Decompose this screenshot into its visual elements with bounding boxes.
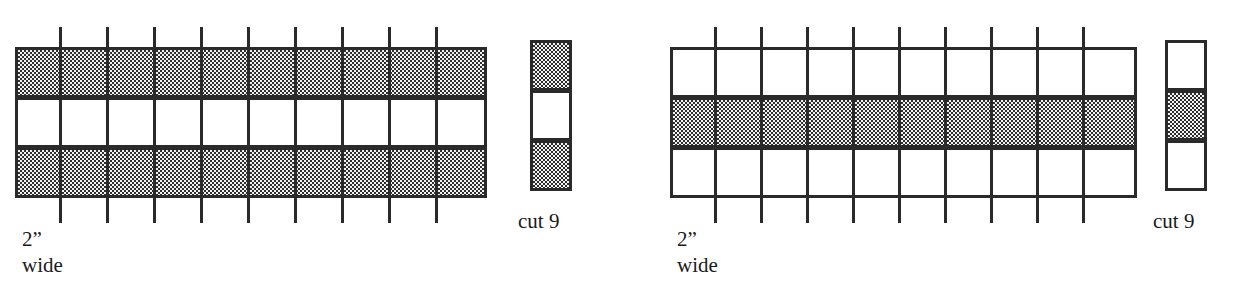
strip-set-panel-b [670,47,1137,198]
strip-set-diagram: 2”wide cut 9 2”wide cut 9 [0,0,1249,296]
fabric-band-b-2 [670,147,1137,198]
cut-label-a: cut 9 [518,208,559,234]
cut-unit-a-cell-1 [530,90,572,141]
strip-set-figure-b: 2”wide cut 9 [625,0,1249,296]
cut-unit-a-cell-0 [530,40,572,91]
width-label-b-value: 2” [677,227,697,251]
fabric-band-b-1 [670,97,1137,148]
width-label-a: 2”wide [22,226,63,278]
width-label-b: 2”wide [677,226,718,278]
cut-unit-b [1165,40,1207,191]
cut-unit-a [530,40,572,191]
fabric-band-a-2 [15,147,487,198]
fabric-band-b-0 [670,47,1137,98]
cut-unit-b-cell-2 [1165,140,1207,191]
fabric-band-a-1 [15,97,487,148]
fabric-band-a-0 [15,47,487,98]
cut-label-b: cut 9 [1153,208,1194,234]
width-label-a-line2: wide [22,252,63,278]
width-label-a-value: 2” [22,227,42,251]
cut-unit-b-cell-0 [1165,40,1207,91]
width-label-b-line2: wide [677,252,718,278]
strip-set-figure-a: 2”wide cut 9 [0,0,625,296]
cut-unit-a-cell-2 [530,140,572,191]
strip-set-panel-a [15,47,487,198]
cut-unit-b-cell-1 [1165,90,1207,141]
